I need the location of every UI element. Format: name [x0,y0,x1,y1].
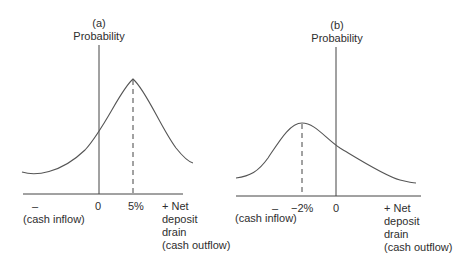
panel-a-tick-zero: 0 [95,200,101,213]
panel-a-plus-caption-line: drain [162,226,230,239]
panel-b-tick-zero: 0 [333,202,339,215]
panel-b-y-axis-title: Probability [307,32,367,45]
panel-a-graph [22,45,193,194]
panel-b-plus-caption-line: deposit [384,215,452,228]
panel-b-minus-caption: (cash inflow) [235,212,297,225]
panel-a-tick-mean: 5% [128,200,144,213]
panel-a-tick-minus: – [32,200,38,213]
panel-b-graph [236,47,421,196]
panel-a-plus-caption-line: + Net [162,200,230,213]
panel-a-plus-caption: + Net deposit drain (cash outflow) [162,200,230,252]
panel-a-plus-caption-line: (cash outflow) [162,239,230,252]
panel-b-distribution-curve [236,123,416,183]
panel-a-minus-caption: (cash inflow) [23,213,85,226]
panel-b-plus-caption-line: (cash outflow) [384,241,452,254]
panel-a-distribution-curve [22,79,193,174]
panel-a-plus-caption-line: deposit [162,213,230,226]
panel-b-plus-caption-line: drain [384,228,452,241]
panel-a-label: (a) [84,17,114,30]
panel-b-plus-caption: + Net deposit drain (cash outflow) [384,202,452,254]
panel-b-label: (b) [322,19,352,32]
panel-a-y-axis-title: Probability [69,30,129,43]
panel-b-plus-caption-line: + Net [384,202,452,215]
